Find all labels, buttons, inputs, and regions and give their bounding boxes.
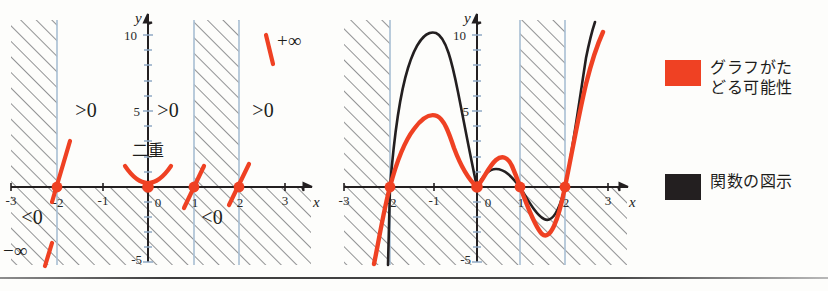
root-marker — [189, 182, 200, 193]
bottom-divider — [0, 277, 828, 279]
sign-negative-1: <0 — [21, 206, 42, 228]
x-axis-label: x — [628, 194, 636, 210]
legend-swatch-red — [665, 60, 701, 86]
x-tick-label: 0 — [155, 195, 162, 210]
hatched-regions-right — [344, 20, 627, 265]
chart-left: -3 -2 -1 0 1 2 3 10 5 -5 x y — [0, 0, 340, 270]
sign-positive-1: >0 — [75, 99, 96, 121]
chart-left-svg: -3 -2 -1 0 1 2 3 10 5 -5 x y — [0, 0, 340, 270]
x-tick-label: 2 — [237, 195, 244, 210]
sign-negative-2: <0 — [201, 206, 222, 228]
root-marker — [560, 182, 571, 193]
y-tick-label-5: 5 — [134, 104, 141, 119]
sign-positive-2: >0 — [157, 99, 178, 121]
double-root-label: 二重 — [132, 141, 164, 160]
root-marker — [52, 182, 63, 193]
limit-plus-infinity: +∞ — [277, 30, 301, 51]
x-tick-label: -1 — [429, 193, 440, 208]
chart-right: -3 -2 -1 0 1 2 3 10 5 -5 x y — [330, 0, 650, 270]
legend: グラフがた どる可能性 関数の図示 — [660, 30, 828, 230]
red-tick-plus-infinity — [266, 35, 273, 64]
y-tick-label-10: 10 — [453, 28, 466, 43]
root-marker — [515, 182, 526, 193]
legend-label-possible-graph-path: グラフがた どる可能性 — [710, 58, 793, 98]
y-tick-label-10: 10 — [124, 28, 137, 43]
x-tick-label: -3 — [6, 193, 17, 208]
sign-positive-3: >0 — [252, 99, 273, 121]
root-marker — [471, 181, 483, 193]
x-tick-label: 3 — [605, 193, 612, 208]
x-tick-label: 3 — [282, 193, 289, 208]
y-axis-label: y — [462, 10, 471, 26]
legend-item-possible-graph-path: グラフがた どる可能性 — [665, 58, 793, 98]
y-tick-label-minus5: -5 — [460, 252, 471, 267]
legend-label-function-plot: 関数の図示 — [710, 172, 793, 192]
root-marker — [385, 182, 396, 193]
x-tick-label: -1 — [98, 193, 109, 208]
x-axis-label: x — [312, 194, 320, 210]
x-tick-label: -3 — [339, 193, 350, 208]
y-tick-label-minus5: -5 — [131, 252, 142, 267]
figure-root: -3 -2 -1 0 1 2 3 10 5 -5 x y — [0, 0, 828, 291]
y-axis-label: y — [133, 10, 142, 26]
chart-right-svg: -3 -2 -1 0 1 2 3 10 5 -5 x y — [330, 0, 650, 270]
x-tick-label: 1 — [192, 195, 199, 210]
x-tick-label: 0 — [485, 195, 492, 210]
limit-minus-infinity: −∞ — [3, 240, 27, 261]
root-marker — [234, 182, 245, 193]
root-marker — [142, 181, 154, 193]
legend-item-function-plot: 関数の図示 — [665, 172, 793, 200]
legend-swatch-black — [665, 174, 701, 200]
